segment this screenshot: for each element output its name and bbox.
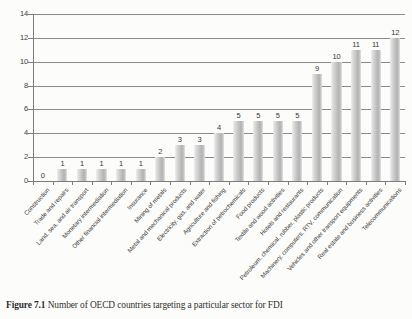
bar bbox=[312, 74, 322, 181]
figure-caption-label: Figure 7.1 bbox=[6, 300, 45, 310]
bar bbox=[57, 169, 67, 181]
y-tick-mark bbox=[28, 86, 34, 87]
x-axis-label: Telecommunications bbox=[361, 187, 403, 232]
bar-value-label: 1 bbox=[131, 160, 151, 168]
bar-value-label: 11 bbox=[366, 41, 386, 49]
bar-value-label: 10 bbox=[327, 53, 347, 61]
bar-value-label: 5 bbox=[248, 112, 268, 120]
y-tick-mark bbox=[28, 157, 34, 158]
bar-value-label: 1 bbox=[111, 160, 131, 168]
gridline bbox=[33, 38, 405, 39]
bar-value-label: 1 bbox=[53, 160, 73, 168]
y-tick-label: 0 bbox=[6, 177, 28, 185]
x-tick-mark bbox=[131, 181, 132, 185]
x-tick-mark bbox=[385, 181, 386, 185]
gridline bbox=[33, 109, 405, 110]
y-tick-label: 4 bbox=[6, 129, 28, 137]
bar-value-label: 9 bbox=[307, 65, 327, 73]
x-tick-mark bbox=[405, 181, 406, 185]
bar bbox=[253, 121, 263, 181]
bar-value-label: 12 bbox=[385, 29, 405, 37]
bar-value-label: 0 bbox=[33, 172, 53, 180]
gridline bbox=[33, 86, 405, 87]
figure-caption: Figure 7.1 Number of OECD countries targ… bbox=[6, 300, 406, 310]
bar-value-label: 4 bbox=[209, 124, 229, 132]
x-tick-mark bbox=[366, 181, 367, 185]
x-tick-mark bbox=[346, 181, 347, 185]
bar-value-label: 3 bbox=[190, 136, 210, 144]
bar-value-label: 1 bbox=[72, 160, 92, 168]
x-tick-mark bbox=[33, 181, 34, 185]
bar bbox=[331, 62, 341, 181]
bar bbox=[273, 121, 283, 181]
bar bbox=[116, 169, 126, 181]
bar-value-label: 11 bbox=[346, 41, 366, 49]
bar-value-label: 5 bbox=[268, 112, 288, 120]
bar bbox=[351, 50, 361, 181]
x-tick-mark bbox=[268, 181, 269, 185]
x-tick-mark bbox=[248, 181, 249, 185]
x-tick-mark bbox=[307, 181, 308, 185]
y-tick-mark bbox=[28, 109, 34, 110]
y-tick-mark bbox=[28, 62, 34, 63]
x-tick-mark bbox=[209, 181, 210, 185]
y-tick-label: 14 bbox=[6, 10, 28, 18]
x-tick-mark bbox=[150, 181, 151, 185]
x-tick-mark bbox=[53, 181, 54, 185]
x-tick-mark bbox=[288, 181, 289, 185]
bar bbox=[292, 121, 302, 181]
bar-value-label: 3 bbox=[170, 136, 190, 144]
y-tick-label: 10 bbox=[6, 58, 28, 66]
x-tick-mark bbox=[190, 181, 191, 185]
bar bbox=[155, 157, 165, 181]
bar bbox=[214, 133, 224, 181]
y-tick-label: 8 bbox=[6, 82, 28, 90]
bar-value-label: 2 bbox=[150, 148, 170, 156]
x-tick-mark bbox=[229, 181, 230, 185]
x-axis-line bbox=[33, 181, 406, 182]
y-tick-mark bbox=[28, 14, 34, 15]
bar bbox=[233, 121, 243, 181]
bar bbox=[194, 145, 204, 181]
x-tick-mark bbox=[327, 181, 328, 185]
x-tick-mark bbox=[111, 181, 112, 185]
bar-chart: 02468101214 01111123345555910111112 Cons… bbox=[0, 0, 412, 296]
bar-value-label: 5 bbox=[229, 112, 249, 120]
gridline bbox=[33, 14, 405, 15]
figure-caption-text: Number of OECD countries targeting a par… bbox=[48, 300, 283, 310]
bar bbox=[371, 50, 381, 181]
bar bbox=[136, 169, 146, 181]
bar bbox=[390, 38, 400, 181]
y-tick-label: 6 bbox=[6, 105, 28, 113]
figure-page: 02468101214 01111123345555910111112 Cons… bbox=[0, 0, 412, 319]
y-tick-label: 2 bbox=[6, 153, 28, 161]
bar-value-label: 1 bbox=[92, 160, 112, 168]
y-tick-mark bbox=[28, 133, 34, 134]
y-tick-mark bbox=[28, 38, 34, 39]
x-tick-mark bbox=[170, 181, 171, 185]
bar bbox=[175, 145, 185, 181]
bar-value-label: 5 bbox=[288, 112, 308, 120]
bar bbox=[77, 169, 87, 181]
gridline bbox=[33, 62, 405, 63]
y-tick-label: 12 bbox=[6, 34, 28, 42]
bar bbox=[96, 169, 106, 181]
plot-area bbox=[33, 14, 405, 181]
x-tick-mark bbox=[92, 181, 93, 185]
x-tick-mark bbox=[72, 181, 73, 185]
